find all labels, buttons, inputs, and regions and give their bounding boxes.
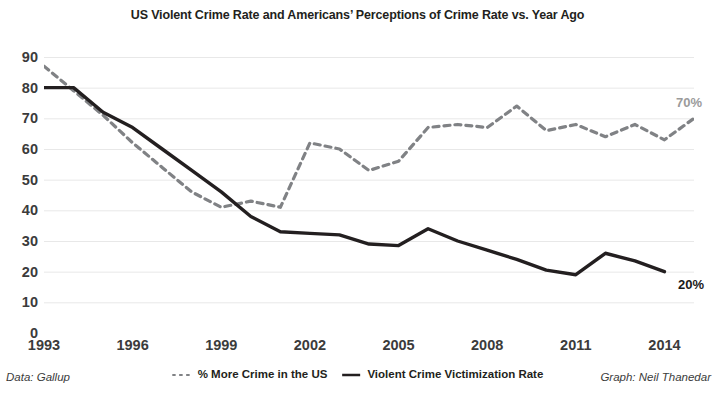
x-tick-label: 2011	[546, 338, 606, 353]
legend-label-perception: % More Crime in the US	[198, 369, 328, 381]
gridlines	[44, 58, 694, 334]
series-line-1	[44, 66, 694, 207]
y-tick-label: 90	[4, 50, 38, 65]
x-axis: 19931996199920022005200820112014	[0, 338, 715, 360]
y-tick-label: 80	[4, 81, 38, 96]
y-tick-label: 20	[4, 265, 38, 280]
solid-line-icon	[341, 370, 361, 380]
annotation-perception-end-value: 70%	[676, 96, 702, 109]
data-source-credit: Data: Gallup	[6, 371, 70, 383]
x-tick-label: 1993	[14, 338, 74, 353]
chart-root: US Violent Crime Rate and Americans’ Per…	[0, 0, 715, 393]
plot-svg	[44, 57, 694, 333]
series-line-2	[44, 88, 664, 275]
x-tick-label: 1996	[103, 338, 163, 353]
plot-area	[44, 57, 694, 333]
x-tick-label: 2002	[280, 338, 340, 353]
chart-title: US Violent Crime Rate and Americans’ Per…	[0, 8, 715, 22]
y-tick-label: 50	[4, 173, 38, 188]
x-tick-label: 1999	[191, 338, 251, 353]
x-tick-label: 2005	[369, 338, 429, 353]
legend-item-perception[interactable]: % More Crime in the US	[172, 369, 328, 381]
chart-legend: % More Crime in the US Violent Crime Vic…	[172, 369, 544, 381]
y-tick-label: 30	[4, 234, 38, 249]
legend-item-victimization[interactable]: Violent Crime Victimization Rate	[341, 369, 543, 381]
y-tick-label: 60	[4, 142, 38, 157]
dashed-line-icon	[172, 370, 192, 380]
y-tick-label: 10	[4, 295, 38, 310]
y-tick-label: 40	[4, 203, 38, 218]
legend-label-victimization: Violent Crime Victimization Rate	[367, 369, 543, 381]
chart-footer: Data: Gallup % More Crime in the US Viol…	[0, 368, 715, 393]
x-tick-label: 2014	[634, 338, 694, 353]
y-axis: 0102030405060708090	[0, 0, 38, 393]
annotation-victimization-end-value: 20%	[678, 278, 704, 291]
x-tick-label: 2008	[457, 338, 517, 353]
graph-author-credit: Graph: Neil Thanedar	[600, 371, 711, 383]
series-layer	[44, 66, 694, 275]
y-tick-label: 70	[4, 111, 38, 126]
